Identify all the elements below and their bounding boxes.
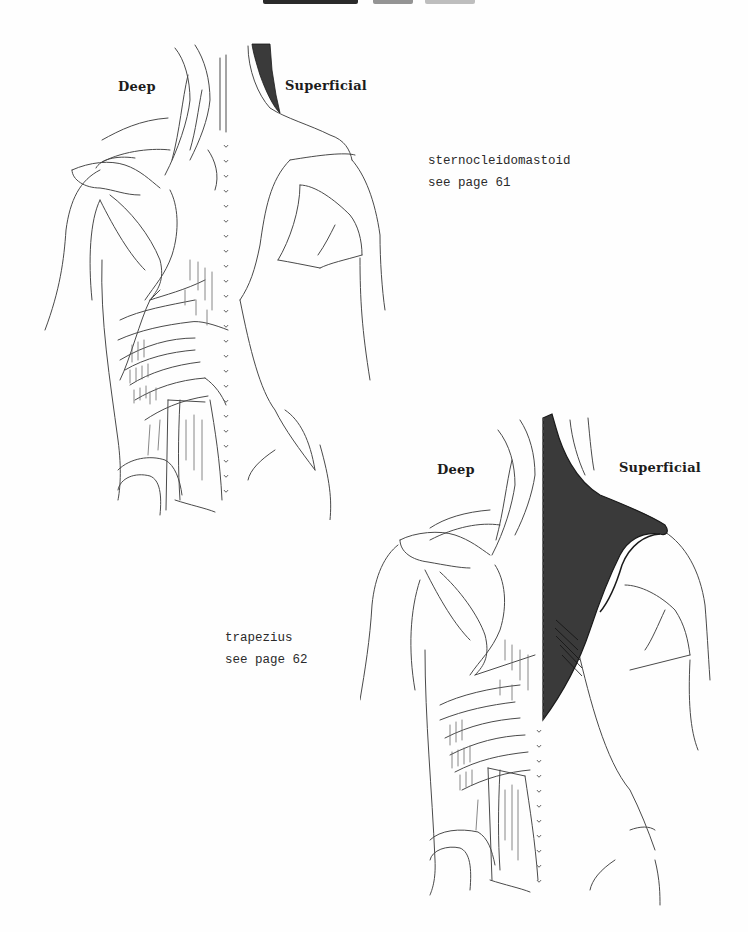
page: Deep Superficial sternocleidomastoid see… [0,0,748,932]
caption-muscle-trapezius: trapezius [225,627,308,649]
figure-1-label-deep: Deep [118,79,156,94]
figure-2-label-superficial: Superficial [619,460,701,475]
cropped-page-heading [255,0,485,6]
figure-2-caption: trapezius see page 62 [225,627,308,671]
caption-page-reference-62: see page 62 [225,649,308,671]
caption-page-reference-61: see page 61 [428,172,571,194]
figure-2-label-deep: Deep [437,462,475,477]
figure-1-caption: sternocleidomastoid see page 61 [428,150,571,194]
figure-trapezius [360,410,748,910]
caption-muscle-sternocleidomastoid: sternocleidomastoid [428,150,571,172]
back-anatomy-drawing-2 [360,410,748,910]
figure-1-label-superficial: Superficial [285,78,367,93]
